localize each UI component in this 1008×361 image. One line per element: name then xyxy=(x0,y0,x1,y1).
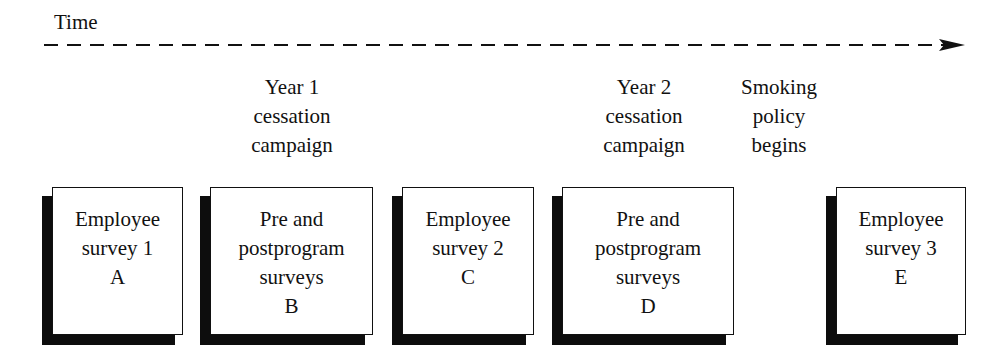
box-line: Pre and xyxy=(563,205,733,234)
box-letter: E xyxy=(837,263,965,292)
box-letter: A xyxy=(53,263,182,292)
box-line: Pre and xyxy=(211,205,372,234)
box-line: survey 3 xyxy=(837,234,965,263)
box-line: surveys xyxy=(211,263,372,292)
box-line: postprogram xyxy=(211,234,372,263)
event-line: Year 2 xyxy=(584,73,704,102)
box-line: Employee xyxy=(53,205,182,234)
event-year2-campaign: Year 2 cessation campaign xyxy=(584,73,704,160)
box-line: survey 2 xyxy=(403,234,533,263)
box-employee-survey-1: Employee survey 1 A xyxy=(52,187,183,335)
box-employee-survey-3: Employee survey 3 E xyxy=(836,187,966,335)
event-line: cessation xyxy=(232,102,352,131)
box-line: Employee xyxy=(837,205,965,234)
box-line: postprogram xyxy=(563,234,733,263)
event-line: begins xyxy=(719,131,839,160)
event-line: campaign xyxy=(232,131,352,160)
event-line: cessation xyxy=(584,102,704,131)
box-letter: B xyxy=(211,292,372,321)
box-face: Pre and postprogram surveys B xyxy=(210,187,373,335)
box-face: Employee survey 2 C xyxy=(402,187,534,335)
box-line: survey 1 xyxy=(53,234,182,263)
event-line: campaign xyxy=(584,131,704,160)
time-label: Time xyxy=(54,10,98,34)
box-line: Employee xyxy=(403,205,533,234)
box-face: Employee survey 1 A xyxy=(52,187,183,335)
event-line: policy xyxy=(719,102,839,131)
box-face: Pre and postprogram surveys D xyxy=(562,187,734,335)
event-line: Year 1 xyxy=(232,73,352,102)
time-axis-arrow xyxy=(44,35,974,55)
box-letter: D xyxy=(563,292,733,321)
box-face: Employee survey 3 E xyxy=(836,187,966,335)
box-employee-survey-2: Employee survey 2 C xyxy=(402,187,534,335)
box-line: surveys xyxy=(563,263,733,292)
event-smoking-policy: Smoking policy begins xyxy=(719,73,839,160)
box-pre-post-surveys-d: Pre and postprogram surveys D xyxy=(562,187,734,335)
box-pre-post-surveys-b: Pre and postprogram surveys B xyxy=(210,187,373,335)
box-letter: C xyxy=(403,263,533,292)
event-year1-campaign: Year 1 cessation campaign xyxy=(232,73,352,160)
event-line: Smoking xyxy=(719,73,839,102)
